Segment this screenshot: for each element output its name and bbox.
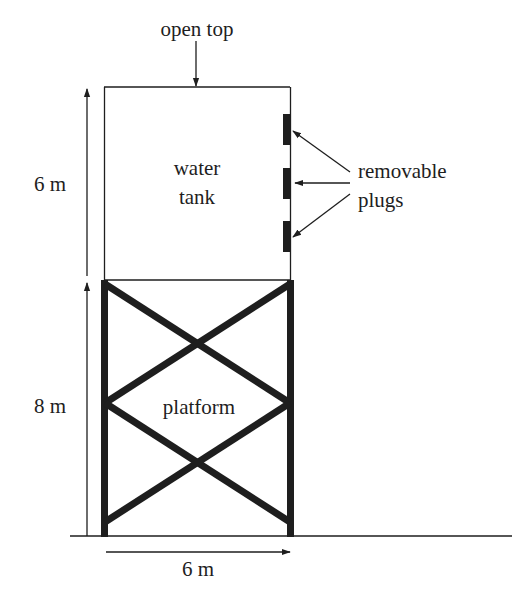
open-top-label: open top [161, 17, 234, 41]
platform-height-label: 8 m [34, 394, 66, 418]
plug-top [283, 114, 291, 145]
tank-label-line1: water [174, 156, 221, 180]
plug-arrow-top [293, 131, 350, 172]
plugs-label-line1: removable [358, 159, 447, 183]
width-label: 6 m [182, 557, 214, 581]
tank-height-label: 6 m [34, 172, 66, 196]
plug-bottom [283, 221, 291, 252]
tank-label-line2: tank [179, 185, 216, 209]
water-tank-diagram: open top water tank removable plugs plat… [0, 0, 530, 599]
water-tank [104, 87, 291, 280]
platform-label: platform [163, 395, 235, 419]
plug-arrow-bottom [293, 194, 350, 237]
plug-middle [283, 168, 291, 199]
plugs-label-line2: plugs [358, 188, 404, 212]
